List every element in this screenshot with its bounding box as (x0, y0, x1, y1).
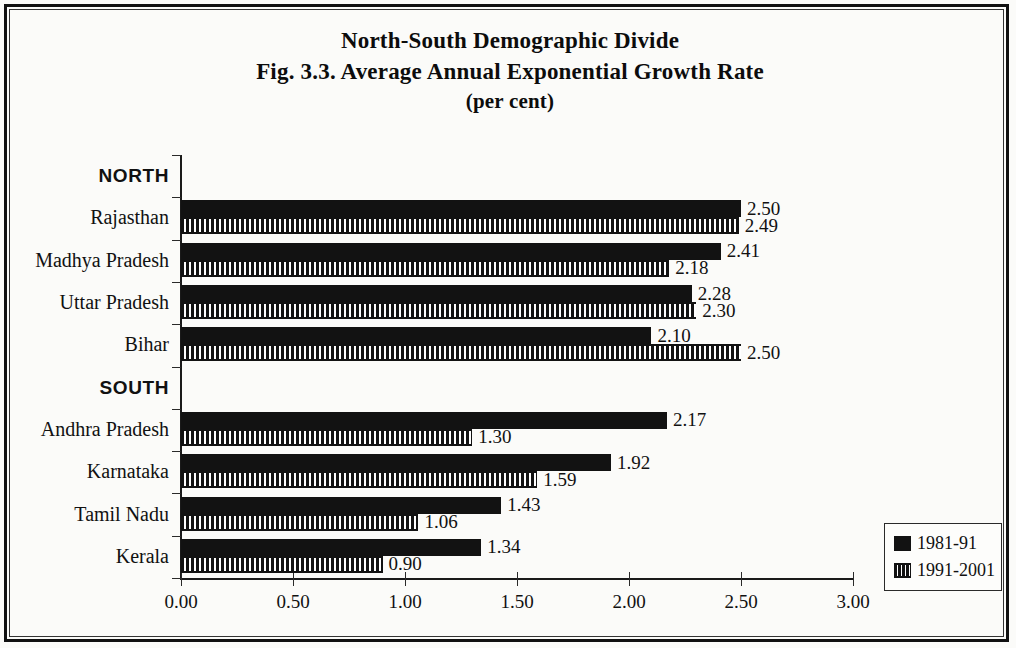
group-header-label: SOUTH (100, 377, 170, 399)
legend-label: 1991-2001 (917, 560, 995, 581)
category-label: Rajasthan (90, 206, 169, 229)
y-axis-tick (172, 451, 181, 452)
y-axis-tick (172, 536, 181, 537)
category-row: Andhra Pradesh2.171.30 (181, 409, 853, 451)
bar-value-label: 2.17 (673, 409, 706, 431)
category-label: Madhya Pradesh (35, 249, 169, 272)
x-axis-tick-label: 3.00 (813, 591, 893, 613)
category-label: Andhra Pradesh (41, 418, 169, 441)
bar-value-label: 0.90 (389, 553, 422, 575)
y-axis-tick (172, 282, 181, 283)
category-label: Karnataka (87, 460, 169, 483)
title-line-1: North-South Demographic Divide (60, 26, 960, 56)
y-axis-tick (172, 578, 181, 579)
title-line-2: Fig. 3.3. Average Annual Exponential Gro… (60, 56, 960, 87)
group-header-row: SOUTH (181, 367, 853, 409)
bar-1991-2001: 2.30 (181, 302, 696, 319)
bar-1981-91: 2.28 (181, 285, 692, 302)
category-row: Bihar2.102.50 (181, 324, 853, 366)
category-row: Madhya Pradesh2.412.18 (181, 240, 853, 282)
y-axis-tick (172, 197, 181, 198)
bar-1991-2001: 2.49 (181, 217, 739, 234)
category-row: Karnataka1.921.59 (181, 451, 853, 493)
y-axis-tick (172, 324, 181, 325)
bar-1981-91: 2.10 (181, 327, 651, 344)
scanned-page: North-South Demographic Divide Fig. 3.3.… (0, 0, 1016, 648)
bar-1981-91: 2.17 (181, 412, 667, 429)
figure-title: North-South Demographic Divide Fig. 3.3.… (60, 26, 960, 115)
x-axis-tick-label: 2.00 (589, 591, 669, 613)
category-label: Kerala (116, 545, 169, 568)
bar-value-label: 2.41 (727, 240, 760, 262)
x-axis-tick-label: 0.00 (141, 591, 221, 613)
bar-1991-2001: 2.50 (181, 344, 741, 361)
x-axis-tick-label: 0.50 (253, 591, 333, 613)
category-label: Bihar (125, 333, 169, 356)
x-axis-tick (853, 572, 854, 586)
y-axis-tick (172, 367, 181, 368)
bar-1981-91: 2.50 (181, 200, 741, 217)
bar-value-label: 1.92 (617, 452, 650, 474)
category-label: Tamil Nadu (74, 503, 169, 526)
category-label: Uttar Pradesh (60, 291, 169, 314)
category-row: Rajasthan2.502.49 (181, 197, 853, 239)
bar-1991-2001: 2.18 (181, 260, 669, 277)
category-row: Uttar Pradesh2.282.30 (181, 282, 853, 324)
plot-area: 0.000.501.001.502.002.503.00 NORTHRajast… (181, 155, 853, 578)
bar-value-label: 2.30 (702, 300, 735, 322)
y-axis-tick (172, 240, 181, 241)
bar-1991-2001: 0.90 (181, 556, 383, 573)
category-row: Kerala1.340.90 (181, 536, 853, 578)
legend-swatch-hatched-icon (894, 563, 911, 578)
bar-value-label: 1.30 (478, 426, 511, 448)
bar-value-label: 1.59 (543, 469, 576, 491)
bar-1981-91: 2.41 (181, 243, 721, 260)
legend-label: 1981-91 (917, 533, 977, 554)
category-row: Tamil Nadu1.431.06 (181, 493, 853, 535)
bar-1991-2001: 1.06 (181, 514, 418, 531)
y-axis-tick (172, 155, 181, 156)
y-axis-tick (172, 409, 181, 410)
title-line-3: (per cent) (60, 87, 960, 115)
legend-item: 1981-91 (894, 530, 1001, 557)
x-axis-tick-label: 2.50 (701, 591, 781, 613)
group-header-label: NORTH (98, 165, 169, 187)
y-axis-tick (172, 493, 181, 494)
bar-1991-2001: 1.59 (181, 471, 537, 488)
x-axis-tick-label: 1.00 (365, 591, 445, 613)
bar-1991-2001: 1.30 (181, 429, 472, 446)
bar-value-label: 2.50 (747, 342, 780, 364)
chart-legend: 1981-911991-2001 (884, 523, 1002, 591)
bar-value-label: 1.06 (424, 511, 457, 533)
bar-value-label: 2.18 (675, 257, 708, 279)
bar-value-label: 2.49 (745, 215, 778, 237)
bar-value-label: 1.43 (507, 494, 540, 516)
legend-swatch-solid-icon (894, 536, 911, 551)
bar-1981-91: 1.34 (181, 539, 481, 556)
bar-value-label: 1.34 (487, 536, 520, 558)
x-axis-tick-label: 1.50 (477, 591, 557, 613)
legend-item: 1991-2001 (894, 557, 1001, 584)
group-header-row: NORTH (181, 155, 853, 197)
